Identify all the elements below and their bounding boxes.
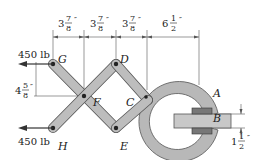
label-B: B bbox=[212, 112, 221, 125]
svg-text:8: 8 bbox=[66, 24, 71, 33]
jaw-B bbox=[192, 128, 212, 134]
svg-text:″: ″ bbox=[179, 15, 182, 24]
arrow-left-icon bbox=[18, 125, 27, 131]
svg-text:″: ″ bbox=[30, 82, 33, 91]
svg-text:6: 6 bbox=[162, 18, 168, 29]
svg-text:1: 1 bbox=[231, 136, 237, 147]
label-F: F bbox=[92, 96, 101, 109]
clamped-bar bbox=[174, 114, 231, 128]
arrow-left-icon bbox=[18, 61, 27, 67]
force-label-H: 450 lb bbox=[18, 136, 50, 147]
label-A: A bbox=[212, 87, 221, 100]
svg-text:″: ″ bbox=[74, 15, 77, 24]
dim-1: 3 7 8 ″ bbox=[58, 14, 77, 33]
label-G: G bbox=[58, 53, 67, 66]
svg-text:7: 7 bbox=[98, 14, 103, 23]
svg-text:5: 5 bbox=[23, 81, 28, 90]
svg-text:3: 3 bbox=[122, 18, 128, 29]
label-H: H bbox=[57, 140, 68, 153]
svg-text:8: 8 bbox=[98, 24, 103, 33]
svg-text:″: ″ bbox=[247, 133, 250, 142]
label-E: E bbox=[119, 140, 128, 153]
pin-D bbox=[114, 62, 118, 66]
svg-text:1: 1 bbox=[171, 14, 176, 23]
svg-text:3: 3 bbox=[90, 18, 96, 29]
label-C: C bbox=[126, 96, 135, 109]
svg-text:2: 2 bbox=[171, 24, 176, 33]
svg-text:8: 8 bbox=[130, 24, 135, 33]
svg-text:7: 7 bbox=[130, 14, 135, 23]
dim-3: 3 7 8 ″ bbox=[122, 14, 141, 33]
svg-text:2: 2 bbox=[239, 142, 244, 151]
dim-thickness: 1 1 2 ″ bbox=[231, 132, 250, 151]
svg-text:8: 8 bbox=[23, 91, 28, 100]
svg-text:″: ″ bbox=[138, 15, 141, 24]
svg-text:1: 1 bbox=[239, 132, 244, 141]
dim-4: 6 1 2 ″ bbox=[162, 14, 182, 33]
dim-2: 3 7 8 ″ bbox=[90, 14, 109, 33]
dim-vertical: 4 5 8 ″ bbox=[15, 81, 33, 100]
svg-text:7: 7 bbox=[66, 14, 71, 23]
pin-C bbox=[144, 95, 148, 99]
svg-text:3: 3 bbox=[58, 18, 64, 29]
pin-E bbox=[114, 126, 118, 130]
force-label-G: 450 lb bbox=[18, 49, 50, 60]
jaw-A bbox=[192, 108, 212, 114]
svg-text:4: 4 bbox=[15, 85, 21, 96]
svg-text:″: ″ bbox=[106, 15, 109, 24]
pin-F bbox=[82, 94, 86, 98]
clamp-diagram: 450 lb 450 lb G D F C H E A B 3 7 8 ″ 3 … bbox=[0, 0, 266, 160]
label-D: D bbox=[119, 53, 129, 66]
